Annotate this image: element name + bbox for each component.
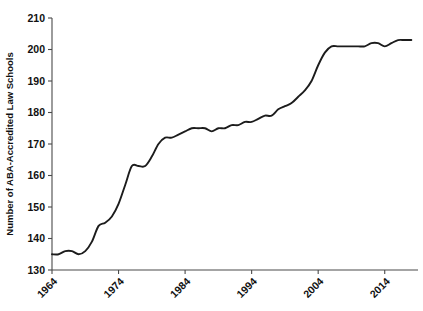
data-line-law-schools: [52, 40, 411, 255]
x-axis-tick-labels: 196419741984199420042014: [34, 275, 392, 300]
x-axis-tick-label: 1984: [168, 275, 193, 300]
y-axis-tick-label: 130: [27, 264, 45, 276]
y-axis-tick-label: 140: [27, 232, 45, 244]
x-axis-ticks: [52, 270, 385, 274]
y-axis-tick-label: 150: [27, 201, 45, 213]
x-axis-tick-label: 2014: [367, 275, 392, 300]
y-axis-tick-label: 180: [27, 106, 45, 118]
y-axis-tick-label: 210: [27, 12, 45, 24]
chart-series: [52, 40, 411, 255]
y-axis-ticks: [48, 18, 52, 270]
y-axis-tick-label: 170: [27, 138, 45, 150]
chart-figure: 130140150160170180190200210 196419741984…: [0, 0, 423, 311]
x-axis-tick-label: 1994: [234, 275, 259, 300]
y-axis-tick-labels: 130140150160170180190200210: [27, 12, 45, 276]
x-axis-tick-label: 1964: [34, 275, 59, 300]
line-chart: 130140150160170180190200210 196419741984…: [0, 0, 423, 311]
x-axis-tick-label: 1974: [101, 275, 126, 300]
chart-axes: [48, 18, 418, 274]
y-axis-tick-label: 190: [27, 75, 45, 87]
x-axis-tick-label: 2004: [301, 275, 326, 300]
y-axis-tick-label: 160: [27, 169, 45, 181]
y-axis-title: Number of ABA-Accredited Law Schools: [4, 52, 15, 235]
y-axis-tick-label: 200: [27, 43, 45, 55]
